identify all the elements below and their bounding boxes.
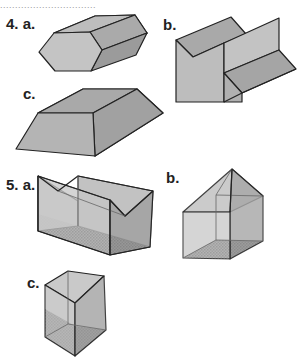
figure-4a-hexagonal-prism	[39, 15, 147, 71]
problem-5c-label: c.	[27, 275, 40, 290]
figure-4c-trapezoidal-prism	[16, 89, 163, 156]
figure-5c-triangular-prism	[45, 271, 106, 356]
problem-5-number: 5. a.	[6, 177, 35, 192]
figures-canvas	[0, 0, 301, 360]
figure-5a-notched-box	[38, 176, 153, 255]
figure-5b-house-prism	[183, 169, 263, 259]
figure-4b-folded-shape	[176, 17, 296, 102]
problem-5b-label: b.	[166, 170, 179, 185]
